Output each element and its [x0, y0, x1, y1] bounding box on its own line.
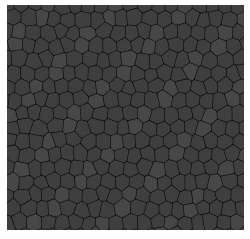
cell — [97, 134, 109, 149]
cell — [75, 203, 89, 217]
cell — [36, 68, 48, 81]
cell — [213, 121, 225, 136]
cell — [179, 218, 191, 230]
cell — [143, 40, 155, 54]
cell — [84, 52, 97, 66]
cell — [192, 26, 204, 39]
cell — [152, 215, 164, 227]
cell — [61, 14, 73, 27]
cell — [83, 5, 94, 12]
cell — [129, 120, 141, 133]
cell — [53, 54, 66, 67]
cell — [139, 216, 151, 231]
cell — [123, 187, 135, 200]
cell — [55, 25, 67, 38]
cell — [109, 107, 122, 121]
cell — [76, 175, 86, 189]
cell — [187, 10, 199, 25]
cell — [132, 93, 144, 107]
cell — [193, 215, 203, 230]
cell — [102, 149, 113, 162]
cell — [7, 10, 20, 24]
cell — [110, 217, 122, 231]
cell — [42, 162, 53, 175]
cell — [128, 149, 140, 163]
cell — [178, 160, 190, 174]
cell — [83, 190, 97, 203]
cell — [241, 92, 244, 106]
cell — [19, 149, 33, 163]
cell — [156, 228, 168, 230]
cell — [44, 79, 54, 92]
cell — [222, 201, 235, 215]
cell — [203, 53, 217, 69]
cell — [7, 189, 12, 202]
cell — [54, 106, 66, 118]
cell — [30, 186, 40, 201]
cell — [31, 80, 42, 92]
cell — [158, 123, 170, 136]
cell — [132, 38, 143, 53]
cell — [112, 135, 122, 149]
cell — [163, 51, 176, 66]
cell — [29, 106, 40, 120]
cell — [123, 5, 136, 10]
cell — [20, 177, 32, 189]
cell — [43, 216, 55, 228]
cell — [142, 147, 154, 161]
cell — [185, 38, 197, 52]
cell — [134, 80, 147, 92]
cell — [35, 177, 47, 188]
cell — [225, 146, 238, 161]
cell — [15, 163, 29, 176]
cell — [164, 133, 176, 147]
cell — [13, 24, 24, 38]
cell — [205, 78, 216, 92]
cell — [42, 26, 56, 41]
cell — [84, 81, 95, 95]
cell — [76, 13, 89, 27]
cell — [139, 106, 151, 121]
cell — [61, 93, 73, 108]
cell — [13, 51, 27, 66]
cell — [123, 82, 134, 94]
cell — [67, 133, 80, 145]
cell — [97, 187, 109, 201]
cell — [179, 5, 191, 12]
cell — [104, 91, 117, 107]
cell — [64, 67, 74, 80]
cell — [192, 81, 206, 95]
cell — [156, 147, 167, 161]
cell — [166, 5, 176, 12]
cell — [131, 175, 144, 188]
cell — [189, 52, 202, 65]
cell — [67, 52, 81, 66]
cell — [81, 104, 92, 119]
voronoi-cells — [7, 5, 244, 230]
cell — [179, 107, 191, 120]
cell — [56, 80, 67, 93]
cell — [70, 215, 83, 228]
cell — [150, 163, 164, 178]
cell-texture-panel — [7, 5, 244, 230]
cell — [55, 5, 69, 14]
cell — [170, 146, 183, 160]
cell — [115, 199, 129, 216]
cell — [47, 229, 58, 230]
cell — [216, 188, 229, 202]
cell — [187, 92, 199, 107]
cell — [210, 12, 222, 26]
cell — [102, 174, 115, 188]
cell — [23, 94, 35, 106]
cell — [68, 106, 79, 120]
cell — [8, 146, 19, 161]
cell — [117, 175, 128, 189]
cell — [105, 120, 116, 134]
cell — [38, 202, 47, 216]
cell — [50, 40, 63, 54]
cell — [56, 188, 68, 202]
cell — [128, 10, 141, 25]
cell — [203, 109, 216, 123]
cell — [205, 133, 217, 148]
cell — [220, 5, 230, 12]
